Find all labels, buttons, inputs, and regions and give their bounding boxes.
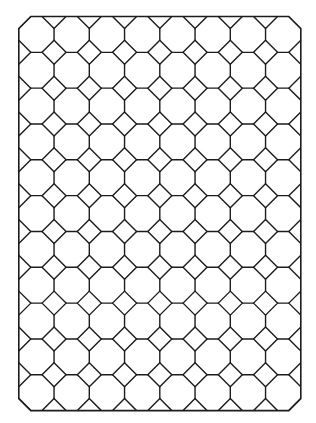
tiling-pattern bbox=[0, 0, 316, 423]
